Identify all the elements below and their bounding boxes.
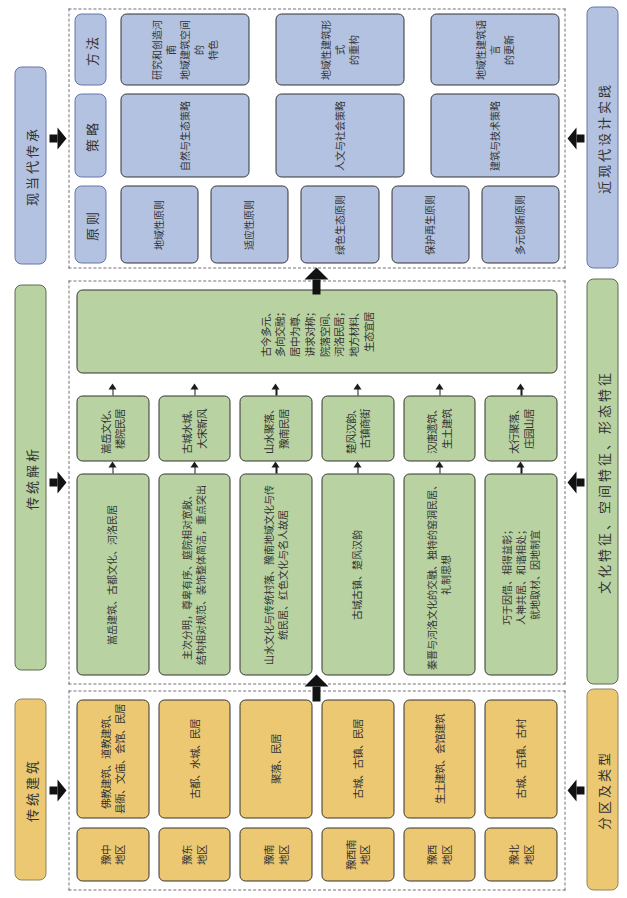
methods-column: 方法 研究和创造河南 地域建筑空间的 特色 地域性建筑形式 的重构 地域性建筑语… [74, 13, 559, 85]
rotated-diagram: 传统建筑 豫中 地区 佛教建筑、道教建筑、 县衙、文庙、会馆、民居 豫东 地区 … [0, 0, 627, 898]
culture-summary-box: 古城水城、 大宋新风 [158, 395, 231, 461]
methods-items: 研究和创造河南 地域建筑空间的 特色 地域性建筑形式 的重构 地域性建筑语言 的… [120, 13, 559, 85]
culture-summary-box: 楚风汉韵、 古镇商街 [321, 395, 394, 461]
arrow-right-icon [270, 461, 281, 473]
arrow-down-icon [49, 471, 66, 493]
table-row: 豫东 地区 古都、水城、民居 [158, 699, 231, 881]
region-box: 豫西 地区 [403, 827, 476, 881]
culture-description-box: 山水文化与传统村落、豫南地域文化与传 统民居、红色文化与名人故居 [239, 473, 312, 675]
modern-inheritance-container: 原则 地域性原则 适应性原则 绿色生态原则 保护再生原则 多元创新原则 策略 自… [68, 8, 565, 268]
arrow-right-icon [107, 461, 118, 473]
arrow-right-icon [352, 461, 363, 473]
table-row: 豫南 地区 聚落、民居 [239, 699, 312, 881]
table-row: 豫西南 地区 古城、古镇、民居 [321, 699, 394, 881]
region-box: 豫中 地区 [76, 827, 149, 881]
section-title-traditional-architecture: 传统建筑 [14, 698, 46, 880]
arrow-right-icon [304, 267, 328, 294]
table-row: 古城古镇、楚风汉韵 楚风汉韵、 古镇商街 [321, 383, 394, 675]
principle-item: 适应性原则 [210, 185, 288, 263]
region-box: 豫东 地区 [158, 827, 231, 881]
arrow-right-icon [189, 461, 200, 473]
principles-column: 原则 地域性原则 适应性原则 绿色生态原则 保护再生原则 多元创新原则 [74, 185, 559, 263]
arrow-right-icon [107, 383, 118, 395]
culture-summary-box: 汉唐遗筑、 生土建筑 [403, 395, 476, 461]
culture-summary-box: 嵩岳文化、 楼院民居 [76, 395, 149, 461]
strategies-header: 策略 [74, 93, 106, 177]
section-title-traditional-analysis: 传统解析 [14, 284, 46, 670]
method-item: 研究和创造河南 地域建筑空间的 特色 [120, 13, 249, 85]
principle-item: 地域性原则 [120, 185, 198, 263]
principle-item: 多元创新原则 [481, 185, 559, 263]
types-box: 古城、古镇、古村 [484, 699, 557, 818]
culture-description-box: 秦晋与河洛文化的交融、独特的窑洞民居、 礼制思想 [403, 473, 476, 675]
region-type-rows: 豫中 地区 佛教建筑、道教建筑、 县衙、文庙、会馆、民居 豫东 地区 古都、水城… [76, 699, 557, 881]
table-row: 豫中 地区 佛教建筑、道教建筑、 县衙、文庙、会馆、民居 [76, 699, 149, 881]
arrow-up-icon [567, 127, 584, 149]
arrow-up-icon [567, 779, 584, 801]
table-row: 主次分明，尊卑有序、庭院相对宽敞、 结构相对规范、装饰整体简洁，重点突出 古城水… [158, 383, 231, 675]
arrow-down-icon [49, 127, 66, 149]
arrow-right-icon [434, 461, 445, 473]
types-box: 古都、水城、民居 [158, 699, 231, 818]
table-row: 嵩岳建筑、古都文化、河洛民居 嵩岳文化、 楼院民居 [76, 383, 149, 675]
table-row: 秦晋与河洛文化的交融、独特的窑洞民居、 礼制思想 汉唐遗筑、 生土建筑 [403, 383, 476, 675]
strategy-item: 自然与生态策略 [120, 93, 249, 177]
arrow-up-icon [567, 471, 584, 493]
method-item: 地域性建筑语言 的更新 [430, 13, 559, 85]
strategies-items: 自然与生态策略 人文与社会策略 建筑与技术策略 [120, 93, 559, 177]
synthesis-box: 古今多元、 多向交融； 居中为尊、 讲求对称； 院落空间、 河洛民居； 地方材料… [76, 289, 557, 373]
analysis-rows: 嵩岳建筑、古都文化、河洛民居 嵩岳文化、 楼院民居 主次分明，尊卑有序、庭院相对… [76, 383, 557, 675]
principles-items: 地域性原则 适应性原则 绿色生态原则 保护再生原则 多元创新原则 [120, 185, 559, 263]
region-box: 豫西南 地区 [321, 827, 394, 881]
types-box: 聚落、民居 [239, 699, 312, 818]
inheritance-columns: 原则 地域性原则 适应性原则 绿色生态原则 保护再生原则 多元创新原则 策略 自… [74, 13, 559, 263]
table-row: 山水文化与传统村落、豫南地域文化与传 统民居、红色文化与名人故居 山水聚落、 豫… [239, 383, 312, 675]
principle-item: 绿色生态原则 [300, 185, 378, 263]
section-footer-partition-types: 分区及类型 [586, 688, 618, 890]
methods-header: 方法 [74, 13, 106, 85]
culture-summary-box: 太行聚落、 庄园山居 [484, 395, 557, 461]
diagram-stage: 传统建筑 豫中 地区 佛教建筑、道教建筑、 县衙、文庙、会馆、民居 豫东 地区 … [0, 0, 627, 898]
culture-description-box: 巧于因借、相得益彰； 人神共居、和谐相处； 就地取材、因地制宜 [484, 473, 557, 675]
types-box: 古城、古镇、民居 [321, 699, 394, 818]
arrow-right-icon [304, 674, 328, 701]
section-traditional-architecture: 传统建筑 豫中 地区 佛教建筑、道教建筑、 县衙、文庙、会馆、民居 豫东 地区 … [0, 690, 627, 890]
culture-description-box: 古城古镇、楚风汉韵 [321, 473, 394, 675]
region-box: 豫南 地区 [239, 827, 312, 881]
culture-description-box: 主次分明，尊卑有序、庭院相对宽敞、 结构相对规范、装饰整体简洁，重点突出 [158, 473, 231, 675]
traditional-analysis-container: 嵩岳建筑、古都文化、河洛民居 嵩岳文化、 楼院民居 主次分明，尊卑有序、庭院相对… [68, 280, 565, 684]
principle-item: 保护再生原则 [391, 185, 469, 263]
arrow-right-icon [189, 383, 200, 395]
section-modern-inheritance: 现当代传承 原则 地域性原则 适应性原则 绿色生态原则 保护再生原则 多元创新原… [0, 8, 627, 268]
strategies-column: 策略 自然与生态策略 人文与社会策略 建筑与技术策略 [74, 93, 559, 177]
types-box: 生土建筑、会馆建筑 [403, 699, 476, 818]
table-row: 巧于因借、相得益彰； 人神共居、和谐相处； 就地取材、因地制宜 太行聚落、 庄园… [484, 383, 557, 675]
arrow-right-icon [515, 383, 526, 395]
arrow-right-icon [270, 383, 281, 395]
traditional-architecture-container: 豫中 地区 佛教建筑、道教建筑、 县衙、文庙、会馆、民居 豫东 地区 古都、水城… [68, 690, 565, 890]
table-row: 豫北 地区 古城、古镇、古村 [484, 699, 557, 881]
strategy-item: 人文与社会策略 [275, 93, 404, 177]
method-item: 地域性建筑形式 的重构 [275, 13, 404, 85]
section-title-modern-inheritance: 现当代传承 [14, 66, 46, 264]
section-footer-features: 文化特征、空间特征、形态特征 [586, 278, 618, 684]
arrow-down-icon [49, 779, 66, 801]
section-footer-design-practice: 近现代设计实践 [586, 6, 618, 268]
principles-header: 原则 [74, 185, 106, 263]
section-traditional-analysis: 传统解析 嵩岳建筑、古都文化、河洛民居 嵩岳文化、 楼院民居 主次分明，尊卑有序… [0, 280, 627, 684]
culture-summary-box: 山水聚落、 豫南民居 [239, 395, 312, 461]
types-box: 佛教建筑、道教建筑、 县衙、文庙、会馆、民居 [76, 699, 149, 818]
arrow-right-icon [352, 383, 363, 395]
strategy-item: 建筑与技术策略 [430, 93, 559, 177]
arrow-right-icon [515, 461, 526, 473]
culture-description-box: 嵩岳建筑、古都文化、河洛民居 [76, 473, 149, 675]
table-row: 豫西 地区 生土建筑、会馆建筑 [403, 699, 476, 881]
arrow-right-icon [434, 383, 445, 395]
region-box: 豫北 地区 [484, 827, 557, 881]
